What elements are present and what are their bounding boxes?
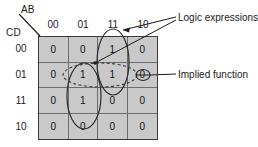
kmap-cell-r1c1: 1 xyxy=(69,63,99,89)
kmap-cell-r0c2: 1 xyxy=(98,37,128,63)
kmap-cell-r2c0: 0 xyxy=(39,88,69,114)
column-header-3: 10 xyxy=(128,19,158,30)
kmap-cell-r1c2: 1 xyxy=(98,63,128,89)
axis-divider-line xyxy=(19,14,40,36)
row-header-0: 00 xyxy=(8,43,34,54)
axis-label-ab: AB xyxy=(21,4,35,15)
kmap-grid: 0 0 1 0 0 1 1 0 0 1 0 0 0 0 0 0 xyxy=(38,36,158,140)
kmap-cell-r2c1: 1 xyxy=(69,88,99,114)
kmap-cell-r3c2: 0 xyxy=(98,114,128,140)
row-header-1: 01 xyxy=(8,69,34,80)
axis-label-cd: CD xyxy=(6,27,21,38)
kmap-cell-r0c3: 0 xyxy=(128,37,158,63)
kmap-cell-r0c1: 0 xyxy=(69,37,99,63)
kmap-figure: AB CD 00 01 11 10 00 01 11 10 0 0 1 0 0 … xyxy=(0,0,258,147)
kmap-cell-r0c0: 0 xyxy=(39,37,69,63)
column-header-2: 11 xyxy=(98,19,128,30)
column-header-1: 01 xyxy=(68,19,98,30)
kmap-cell-r2c3: 0 xyxy=(128,88,158,114)
annotation-implied-function: Implied function xyxy=(178,69,248,80)
column-header-0: 00 xyxy=(38,19,68,30)
kmap-cell-r2c2: 0 xyxy=(98,88,128,114)
row-header-3: 10 xyxy=(8,121,34,132)
kmap-cell-r1c0: 0 xyxy=(39,63,69,89)
annotation-logic-expressions: Logic expressions xyxy=(178,12,258,23)
kmap-cell-r3c1: 0 xyxy=(69,114,99,140)
kmap-cell-r3c0: 0 xyxy=(39,114,69,140)
kmap-cell-r3c3: 0 xyxy=(128,114,158,140)
kmap-cell-r1c3: 0 xyxy=(128,63,158,89)
row-header-2: 11 xyxy=(8,95,34,106)
